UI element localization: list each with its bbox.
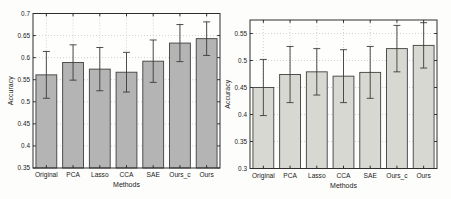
y-tick-label: 0.4: [238, 111, 247, 118]
y-axis-title: Accuracy: [224, 79, 232, 108]
y-tick-label: 0.65: [18, 32, 31, 39]
x-category-label: SAE: [147, 171, 161, 178]
x-category-label: PCA: [283, 172, 297, 179]
x-category-label: Ours_c: [386, 172, 408, 180]
x-category-label: Original: [252, 172, 275, 180]
y-tick-label: 0.35: [235, 138, 248, 145]
dual-bar-chart-figure: 0.350.40.450.50.550.60.650.7OriginalPCAL…: [0, 0, 451, 199]
y-tick-labels: 0.350.40.450.50.550.60.650.7: [18, 10, 31, 172]
y-tick-label: 0.45: [235, 84, 248, 91]
x-category-label: Lasso: [91, 171, 109, 178]
x-category-label: CCA: [120, 171, 135, 178]
y-axis-title: Accuracy: [7, 76, 15, 105]
y-tick-label: 0.6: [21, 54, 30, 61]
x-category-label: PCA: [66, 171, 80, 178]
x-axis-title: Methods: [330, 182, 357, 189]
x-category-labels: OriginalPCALassoCCASAEOurs_cOurs: [252, 172, 431, 180]
x-category-labels: OriginalPCALassoCCASAEOurs_cOurs: [35, 171, 214, 179]
y-tick-label: 0.45: [18, 120, 31, 127]
y-tick-label: 0.55: [235, 30, 248, 37]
y-tick-label: 0.3: [238, 165, 247, 172]
y-tick-label: 0.35: [18, 164, 31, 171]
x-category-label: Lasso: [308, 172, 326, 179]
x-category-label: Ours_c: [169, 171, 191, 179]
x-category-label: CCA: [337, 172, 352, 179]
x-category-label: Ours: [416, 172, 431, 179]
x-axis-title: Methods: [113, 181, 140, 188]
bar-ours: [196, 39, 217, 168]
x-category-label: SAE: [364, 172, 378, 179]
y-tick-label: 0.5: [21, 98, 30, 105]
left-accuracy-chart: 0.350.40.450.50.550.60.650.7OriginalPCAL…: [7, 10, 221, 188]
y-tick-label: 0.7: [21, 10, 30, 17]
x-category-label: Original: [35, 171, 58, 179]
y-tick-label: 0.55: [18, 76, 31, 83]
y-tick-label: 0.4: [21, 142, 30, 149]
y-tick-label: 0.5: [238, 57, 247, 64]
figure-canvas: 0.350.40.450.50.550.60.650.7OriginalPCAL…: [0, 0, 451, 199]
y-tick-labels: 0.30.350.40.450.50.55: [235, 30, 248, 172]
right-accuracy-chart: 0.30.350.40.450.50.55OriginalPCALassoCCA…: [224, 20, 438, 189]
x-category-label: Ours: [199, 171, 214, 178]
